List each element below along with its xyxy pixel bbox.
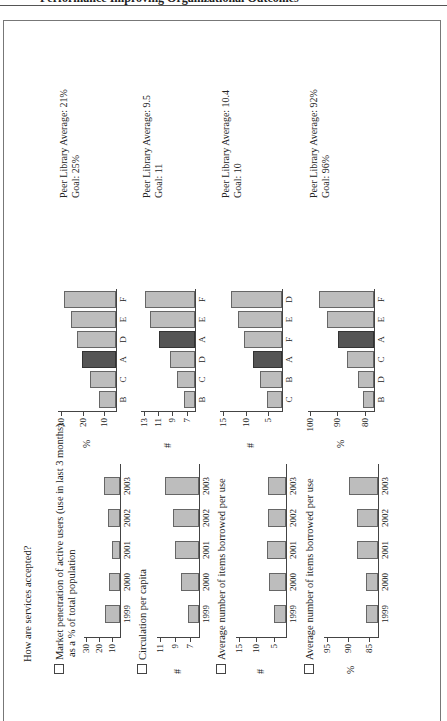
y-unit-label: %	[81, 440, 92, 448]
y-axis	[157, 637, 199, 638]
bar-E	[150, 311, 195, 328]
bar-2002	[268, 509, 286, 527]
bar-C	[177, 371, 195, 388]
x-tick-label: 2002	[122, 503, 132, 533]
y-tick-label: 95	[322, 644, 332, 662]
peer-summary: Peer Library Average: 92%Goal: 96%	[308, 89, 332, 198]
metric-question: Market penetration of active users (use …	[54, 424, 78, 674]
y-tick-label: 85	[364, 644, 374, 662]
bar-A	[159, 331, 195, 348]
bar-F	[319, 291, 374, 308]
x-axis	[116, 289, 117, 412]
y-unit-label: #	[172, 669, 183, 674]
metric-row: Circulation per capita1197#1999200020012…	[137, 21, 215, 690]
page-header: Performance Improving Organizational Out…	[0, 0, 447, 6]
y-tick-label: 10	[107, 644, 117, 662]
x-tick-label: F	[118, 285, 128, 314]
bar-E	[327, 311, 374, 328]
bar-2000	[109, 573, 120, 591]
bar-2000	[366, 573, 378, 591]
x-tick-label: 2003	[201, 471, 211, 501]
bar-B	[99, 391, 116, 408]
metric-question: Circulation per capita	[137, 569, 149, 674]
figure-canvas: How are services accepted? Market penetr…	[4, 21, 440, 690]
checkbox[interactable]	[216, 664, 226, 674]
bar-C	[347, 351, 375, 368]
y-tick-label: 20	[78, 418, 88, 436]
y-axis	[58, 411, 116, 412]
y-unit-label: %	[335, 440, 346, 448]
bar-2002	[173, 509, 199, 527]
x-tick-label: 2002	[288, 503, 298, 533]
peer-average-text: Peer Library Average: 10.4	[220, 90, 232, 198]
x-axis	[286, 464, 287, 638]
bar-1999	[105, 605, 120, 623]
page-header-text: Performance Improving Organizational Out…	[40, 0, 299, 6]
peer-summary: Peer Library Average: 10.4Goal: 10	[220, 90, 244, 198]
bar-B	[363, 391, 374, 408]
question-text: Average number of items borrowed per use	[216, 478, 227, 660]
checkbox[interactable]	[304, 664, 314, 674]
y-tick-label: 10	[241, 418, 251, 436]
peer-summary: Peer Library Average: 9.5Goal: 11	[141, 95, 165, 198]
y-tick-label: 30	[56, 418, 66, 436]
metric-row: Average number of items borrowed per use…	[216, 21, 302, 690]
bar-2001	[175, 541, 199, 559]
checkbox[interactable]	[137, 664, 147, 674]
x-tick-label: 2003	[122, 471, 132, 501]
metric-question: Average number of items borrowed per use	[304, 478, 316, 674]
peer-average-text: Peer Library Average: 92%	[308, 89, 320, 198]
y-tick-label: 100	[305, 418, 315, 436]
x-tick-label: 2002	[380, 503, 390, 533]
peer-average-text: Peer Library Average: 9.5	[141, 95, 153, 198]
y-axis	[324, 637, 378, 638]
x-axis	[195, 289, 196, 412]
y-tick-label: 80	[360, 418, 370, 436]
metric-question: Average number of items borrowed per use	[216, 478, 228, 674]
bar-2002	[357, 509, 378, 527]
goal-text: Goal: 25%	[70, 89, 82, 198]
checkbox[interactable]	[54, 664, 64, 674]
x-tick-label: 2000	[122, 567, 132, 597]
bar-A	[253, 351, 282, 368]
y-tick-label: 5	[269, 644, 279, 662]
metric-row: Average number of items borrowed per use…	[304, 21, 394, 690]
y-tick-label: 9	[167, 418, 177, 436]
bar-2001	[112, 541, 120, 559]
x-tick-label: 1999	[380, 599, 390, 629]
y-tick-label: 13	[139, 418, 149, 436]
y-tick-label: 10	[99, 418, 109, 436]
y-tick-label: 11	[153, 418, 163, 436]
peer-average-text: Peer Library Average: 21%	[58, 89, 70, 198]
bar-F	[244, 331, 282, 348]
figure-frame: How are services accepted? Market penetr…	[3, 20, 441, 721]
bar-1999	[366, 605, 378, 623]
x-tick-label: 2000	[201, 567, 211, 597]
bar-2001	[267, 541, 286, 559]
x-tick-label: F	[197, 285, 207, 314]
bar-2003	[104, 477, 120, 495]
figure-title: How are services accepted?	[22, 546, 33, 662]
bar-2000	[181, 573, 199, 591]
x-tick-label: 2003	[380, 471, 390, 501]
bar-B	[260, 371, 282, 388]
bar-A	[82, 351, 116, 368]
goal-text: Goal: 96%	[320, 89, 332, 198]
x-tick-label: 1999	[122, 599, 132, 629]
y-axis	[220, 411, 282, 412]
bar-2001	[357, 541, 378, 559]
y-tick-label: 7	[185, 644, 195, 662]
y-tick-label: 90	[332, 418, 342, 436]
x-tick-label: 2000	[288, 567, 298, 597]
x-axis	[378, 464, 379, 638]
y-tick-label: 30	[81, 644, 91, 662]
y-tick-label: 90	[343, 644, 353, 662]
bar-E	[71, 311, 116, 328]
bar-C	[267, 391, 283, 408]
question-subtext: as a % of total population	[66, 424, 78, 674]
bar-A	[338, 331, 374, 348]
y-unit-label: #	[162, 443, 173, 448]
peer-summary: Peer Library Average: 21%Goal: 25%	[58, 89, 82, 198]
y-unit-label: #	[245, 443, 256, 448]
bar-D	[77, 331, 116, 348]
